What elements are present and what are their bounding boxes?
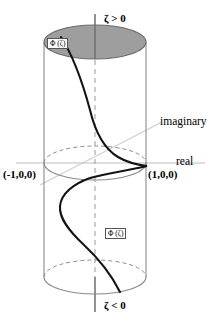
phi-label-top: Φ (ζ): [47, 38, 68, 49]
phi-label-bottom: Φ (ζ): [105, 228, 126, 239]
figure-container: ζ > 0 ζ < 0 imaginary real (-1,0,0) (1,0…: [0, 0, 221, 325]
coordinate-label-right: (1,0,0): [148, 169, 177, 180]
zeta-positive-label: ζ > 0: [104, 13, 126, 24]
imaginary-axis-label: imaginary: [160, 116, 207, 128]
zeta-negative-label: ζ < 0: [104, 300, 126, 311]
coordinate-label-left: (-1,0,0): [3, 169, 36, 180]
phi-curve: [60, 37, 147, 292]
real-axis-label: real: [176, 156, 193, 168]
